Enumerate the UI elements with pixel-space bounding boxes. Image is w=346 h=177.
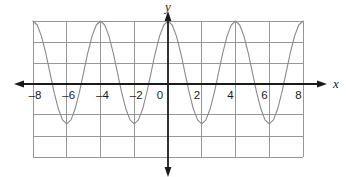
x-tick-label--2: –2 bbox=[130, 89, 143, 101]
x-tick-label--6: –6 bbox=[62, 89, 75, 101]
x-tick-label-4: 4 bbox=[227, 89, 234, 101]
x-tick-label-2: 2 bbox=[194, 89, 200, 101]
graph-figure: x y –8 –6 –4 –2 0 2 4 6 8 bbox=[0, 0, 346, 177]
x-tick-label--8: –8 bbox=[29, 89, 42, 101]
x-axis-label: x bbox=[332, 76, 339, 91]
x-tick-label-6: 6 bbox=[261, 89, 267, 101]
y-axis-label: y bbox=[163, 0, 171, 14]
x-tick-label-8: 8 bbox=[295, 89, 301, 101]
x-tick-label-0: 0 bbox=[157, 89, 163, 101]
x-tick-label--4: –4 bbox=[96, 89, 109, 101]
coordinate-plane-svg: x y –8 –6 –4 –2 0 2 4 6 8 bbox=[0, 0, 346, 177]
